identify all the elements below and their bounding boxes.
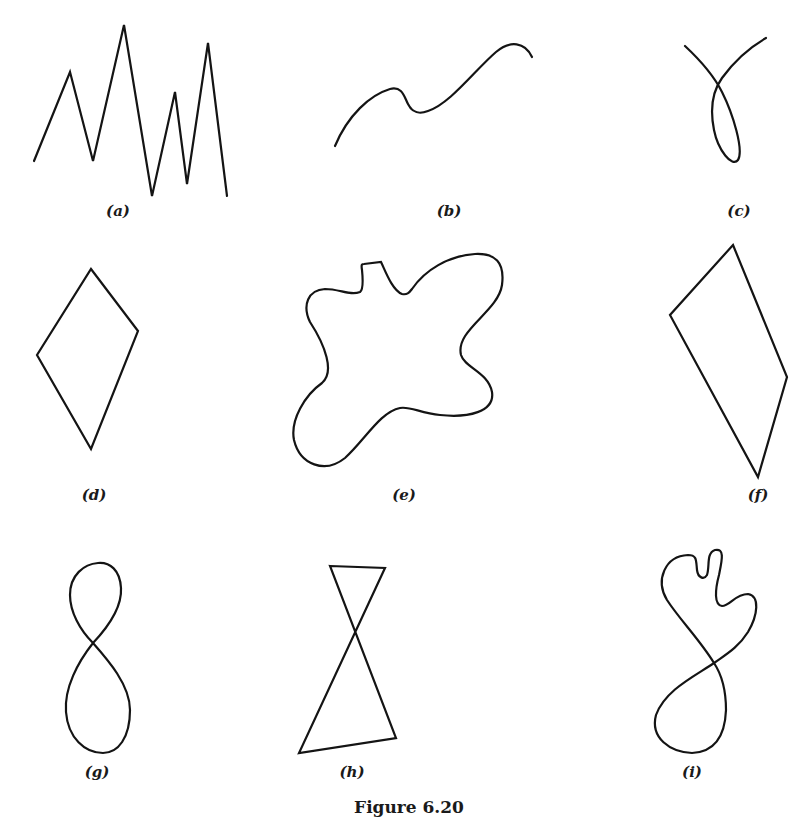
figure-canvas: (a) (b) (c) (d) (e) (f) (g) (h) (i) Figu… [0,0,807,819]
panel-label-g: (g) [85,763,110,781]
curve-b-wavy [335,44,532,146]
shape-h-bowtie [299,566,396,753]
panel-label-e: (e) [392,486,416,504]
curve-c-loop [685,38,766,162]
curve-a-zigzag [34,25,227,196]
panel-label-i: (i) [682,763,702,781]
figure-caption: Figure 6.20 [354,797,464,817]
shape-g-figure-eight [66,563,130,753]
shape-d-diamond [37,269,138,449]
panel-label-b: (b) [437,202,462,220]
panel-label-a: (a) [106,202,130,220]
panel-label-h: (h) [339,763,364,781]
panel-label-d: (d) [82,486,107,504]
shape-f-quadrilateral [670,245,787,477]
panel-label-f: (f) [748,486,769,504]
shape-i-self-intersecting-curve [655,550,756,753]
panel-label-c: (c) [727,202,750,220]
shape-e-blob [293,254,502,466]
